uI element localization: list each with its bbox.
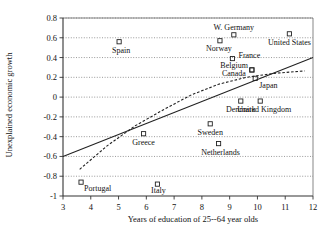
x-tick-label: 5 <box>116 202 120 212</box>
x-tick-label: 7 <box>172 202 176 212</box>
x-tick-label: 9 <box>228 202 232 212</box>
data-point-marker <box>117 40 121 44</box>
data-point-label: Norway <box>206 44 232 53</box>
data-point-label: Portugal <box>84 184 112 193</box>
x-tick-label: 8 <box>200 202 204 212</box>
y-tick-label: 0.4 <box>46 53 57 63</box>
chart-container: 3456789101112 0.80.60.40.20-0.2-0.4-0.6-… <box>0 0 324 233</box>
data-point-label: Sweden <box>198 128 223 137</box>
data-point-label: Netherlands <box>201 148 240 157</box>
data-point-marker <box>218 39 222 43</box>
y-axis-title: Unexplained economic growth <box>4 52 14 158</box>
data-point-label: W. Germany <box>214 23 255 32</box>
data-point-marker <box>79 180 83 184</box>
data-point-marker <box>239 99 243 103</box>
data-point-label: Canada <box>222 69 246 78</box>
y-tick-label: 0.8 <box>46 13 57 23</box>
y-tick-label: -0.6 <box>44 151 57 161</box>
x-tick-label: 11 <box>281 202 289 212</box>
data-point-marker <box>232 33 236 37</box>
y-tick-label: 0 <box>53 92 57 102</box>
data-point-label: Japan <box>259 81 277 90</box>
y-tick-label: 0.2 <box>46 72 57 82</box>
y-tick-label: -0.4 <box>44 132 58 142</box>
data-points: SpainW. GermanyUnited StatesNorwayFrance… <box>79 23 311 195</box>
data-point-label: Italy <box>151 186 166 195</box>
data-point-marker <box>250 68 254 72</box>
data-point-label: France <box>238 51 260 60</box>
data-point-label: United States <box>268 38 311 47</box>
data-point-marker <box>250 68 254 72</box>
x-tick-label: 10 <box>253 202 262 212</box>
x-axis-ticks: 3456789101112 <box>61 196 317 212</box>
data-point-label: Greece <box>132 138 155 147</box>
x-axis-title: Years of education of 25--64 year olds <box>128 214 258 224</box>
data-point-marker <box>287 32 291 36</box>
y-tick-label: -1 <box>50 191 57 201</box>
data-point-label: United Kingdom <box>237 105 292 114</box>
y-axis-ticks: 0.80.60.40.20-0.2-0.4-0.6-0.8-1 <box>44 13 63 201</box>
scatter-plot: 3456789101112 0.80.60.40.20-0.2-0.4-0.6-… <box>0 0 324 233</box>
data-point-marker <box>258 99 262 103</box>
data-point-label: Spain <box>112 46 130 55</box>
x-tick-label: 12 <box>309 202 318 212</box>
x-tick-label: 6 <box>144 202 148 212</box>
data-point-marker <box>216 141 220 145</box>
x-tick-label: 3 <box>61 202 65 212</box>
x-tick-label: 4 <box>89 202 94 212</box>
data-point-marker <box>141 132 145 136</box>
y-tick-label: 0.6 <box>46 33 57 43</box>
y-tick-label: -0.8 <box>44 171 57 181</box>
y-tick-label: -0.2 <box>44 112 57 122</box>
data-point-marker <box>208 122 212 126</box>
